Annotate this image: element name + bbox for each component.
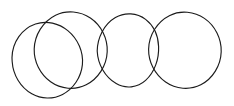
circle-4-outline bbox=[149, 12, 222, 88]
circle-3-outline bbox=[97, 14, 158, 87]
circle-2-outline bbox=[34, 12, 107, 89]
circle-1-outline bbox=[12, 22, 83, 98]
overlapping-circles-drawing bbox=[0, 0, 234, 106]
figure-canvas bbox=[0, 0, 234, 106]
